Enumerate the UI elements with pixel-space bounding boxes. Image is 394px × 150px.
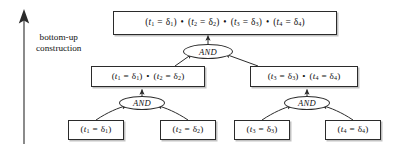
gate-and-bottom-right: AND <box>284 96 330 110</box>
side-label-line1: bottom-up <box>36 32 81 43</box>
node-mid-right-expression: (t3 = δ3) • (t4 = δ4) <box>268 72 341 81</box>
node-leaf-3: (t3 = δ3) <box>234 120 290 140</box>
node-leaf-1: (t1 = δ1) <box>68 120 124 140</box>
edge-midright-to-andtop <box>225 54 258 66</box>
edge-leaf4-to-andbottomright <box>322 106 353 121</box>
edge-leaf2-to-andbottomleft <box>157 106 188 121</box>
gate-and-top: AND <box>183 44 233 59</box>
node-mid-right: (t3 = δ3) • (t4 = δ4) <box>250 66 358 87</box>
node-mid-left-expression: (t1 = δ1) • (t2 = δ2) <box>112 72 185 81</box>
side-label-line2: construction <box>36 43 81 54</box>
node-leaf-1-expression: (t1 = δ1) <box>81 125 112 134</box>
bottom-up-arrow-icon <box>19 9 29 144</box>
edge-leaf3-to-andbottomright <box>262 106 292 121</box>
node-mid-left: (t1 = δ1) • (t2 = δ2) <box>91 66 205 87</box>
node-leaf-2: (t2 = δ2) <box>160 120 216 140</box>
node-root: (t1 = δ1) • (t2 = δ2) • (t3 = δ3) • (t4 … <box>113 11 337 35</box>
node-leaf-3-expression: (t3 = δ3) <box>247 125 278 134</box>
gate-and-bottom-right-label: AND <box>298 98 316 108</box>
bottom-up-construction-label: bottom-up construction <box>36 32 81 54</box>
node-leaf-2-expression: (t2 = δ2) <box>173 125 204 134</box>
diagram-canvas: bottom-up construction (t1 = δ1) • (t2 =… <box>0 0 394 150</box>
node-leaf-4: (t4 = δ4) <box>325 120 381 140</box>
gate-and-bottom-left-label: AND <box>133 98 151 108</box>
node-leaf-4-expression: (t4 = δ4) <box>338 125 369 134</box>
gate-and-bottom-left: AND <box>119 96 165 110</box>
edge-leaf1-to-andbottomleft <box>96 106 127 121</box>
gate-and-top-label: AND <box>199 47 217 57</box>
node-root-expression: (t1 = δ1) • (t2 = δ2) • (t3 = δ3) • (t4 … <box>145 18 304 27</box>
